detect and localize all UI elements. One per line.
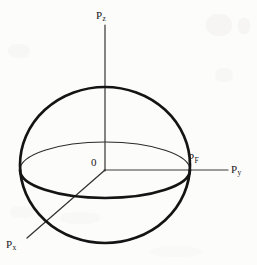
- pz-label-subscript: z: [102, 14, 106, 23]
- py-label-subscript: y: [237, 168, 241, 177]
- px-label-subscript: x: [12, 243, 16, 252]
- px-axis-line: [27, 170, 105, 238]
- equator-front-arc: [20, 170, 190, 198]
- pf-label-subscript: F: [194, 156, 198, 165]
- figure-canvas: Pz Py Px PF 0: [0, 0, 257, 265]
- origin-label: 0: [91, 156, 97, 168]
- fermi-momentum-label: PF: [188, 151, 199, 165]
- fermi-sphere-svg: [0, 0, 257, 265]
- pz-axis-label: Pz: [96, 9, 106, 23]
- py-axis-label: Py: [231, 163, 241, 177]
- px-axis-label: Px: [6, 238, 16, 252]
